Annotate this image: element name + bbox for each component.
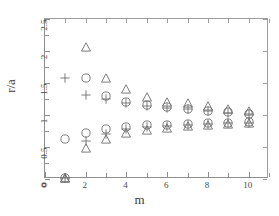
- data-point-circle: [223, 107, 234, 118]
- data-point-plus: [243, 117, 254, 128]
- data-point-plus: [202, 118, 213, 129]
- x-axis-tick-label: 6: [164, 180, 169, 190]
- data-point-triangle: [202, 120, 213, 131]
- x-axis-tick-label: 10: [243, 180, 252, 190]
- data-point-plus: [60, 72, 71, 83]
- data-point-circle: [223, 117, 234, 128]
- data-point-circle: [80, 127, 91, 138]
- data-point-triangle: [243, 105, 254, 116]
- data-point-plus: [101, 128, 112, 139]
- y-axis-tick-label: 2.5: [39, 18, 49, 32]
- data-point-circle: [141, 100, 152, 111]
- data-point-plus: [223, 118, 234, 129]
- data-point-plus: [121, 124, 132, 135]
- data-layer: [45, 19, 267, 177]
- plot-area: [44, 18, 268, 178]
- y-axis-tick-label: 0: [39, 178, 49, 192]
- y-axis-tick-label: 1: [39, 114, 49, 128]
- data-point-triangle: [182, 120, 193, 131]
- x-axis-tick-top: [269, 19, 270, 23]
- data-point-plus: [101, 94, 112, 105]
- data-point-circle: [101, 90, 112, 101]
- x-axis-tick: [269, 173, 270, 177]
- data-point-triangle: [223, 118, 234, 129]
- data-point-triangle: [101, 134, 112, 145]
- data-point-triangle: [223, 103, 234, 114]
- data-point-circle: [182, 103, 193, 114]
- data-point-circle: [60, 172, 71, 183]
- data-point-triangle: [121, 84, 132, 95]
- data-point-circle: [80, 72, 91, 83]
- data-point-plus: [80, 89, 91, 100]
- data-point-circle: [162, 119, 173, 130]
- y-axis-tick-label: 1.5: [39, 82, 49, 96]
- data-point-plus: [80, 135, 91, 146]
- x-axis-title: m: [0, 192, 279, 208]
- x-axis-tick-label: 8: [205, 180, 210, 190]
- data-point-circle: [202, 105, 213, 116]
- data-point-triangle: [141, 92, 152, 103]
- data-point-triangle: [60, 172, 71, 183]
- data-point-circle: [202, 118, 213, 129]
- data-point-triangle: [182, 98, 193, 109]
- data-point-plus: [202, 106, 213, 117]
- y-axis-tick-label: 0.5: [39, 146, 49, 160]
- data-point-plus: [141, 122, 152, 133]
- data-point-triangle: [141, 124, 152, 135]
- data-point-triangle: [101, 72, 112, 83]
- y-axis-title: r/a: [3, 79, 19, 93]
- data-point-circle: [121, 97, 132, 108]
- data-point-plus: [223, 108, 234, 119]
- data-point-circle: [141, 120, 152, 131]
- data-point-circle: [60, 134, 71, 145]
- data-point-circle: [243, 117, 254, 128]
- scatter-plot-figure: r/a m 024681000.511.522.5: [0, 0, 279, 216]
- x-axis-tick-label: 4: [123, 180, 128, 190]
- y-axis-tick-right: [263, 179, 267, 180]
- data-point-triangle: [121, 127, 132, 138]
- data-point-plus: [162, 102, 173, 113]
- data-point-triangle: [80, 143, 91, 154]
- data-point-circle: [121, 121, 132, 132]
- data-point-plus: [182, 104, 193, 115]
- data-point-triangle: [162, 96, 173, 107]
- data-point-triangle: [80, 41, 91, 52]
- data-point-plus: [60, 172, 71, 183]
- data-point-plus: [141, 101, 152, 112]
- data-point-circle: [243, 108, 254, 119]
- x-axis-tick-label: 2: [82, 180, 87, 190]
- data-point-circle: [162, 102, 173, 113]
- data-point-triangle: [162, 122, 173, 133]
- data-point-plus: [243, 109, 254, 120]
- data-point-triangle: [202, 101, 213, 112]
- data-point-plus: [162, 120, 173, 131]
- data-point-circle: [182, 118, 193, 129]
- data-point-triangle: [243, 118, 254, 129]
- data-point-circle: [101, 124, 112, 135]
- data-point-plus: [182, 119, 193, 130]
- y-axis-tick-label: 2: [39, 50, 49, 64]
- data-point-plus: [121, 98, 132, 109]
- data-point-triangle: [60, 172, 71, 183]
